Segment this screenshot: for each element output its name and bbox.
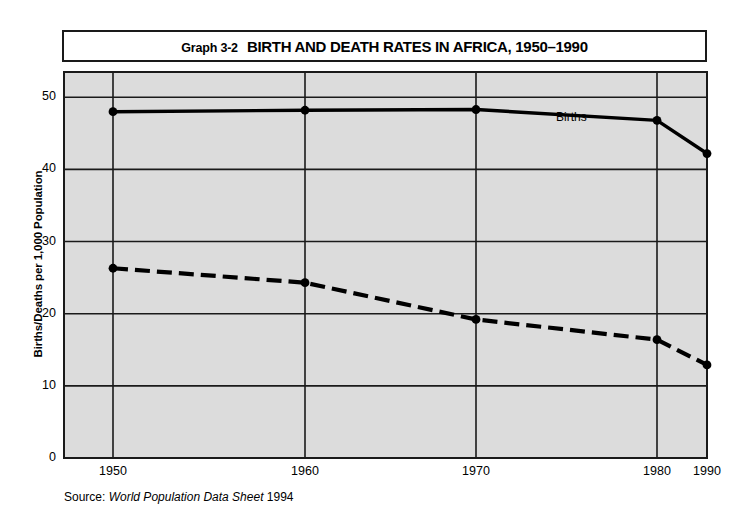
- data-point-births-1980: [653, 116, 662, 125]
- y-tick-10: 10: [16, 378, 56, 392]
- x-tick-1950: 1950: [83, 464, 143, 478]
- data-point-births-1960: [301, 106, 310, 115]
- data-point-deaths-1990: [703, 361, 712, 370]
- data-point-deaths-1950: [109, 264, 118, 273]
- x-tick-1960: 1960: [275, 464, 335, 478]
- y-tick-50: 50: [16, 89, 56, 103]
- y-tick-20: 20: [16, 306, 56, 320]
- source-year: 1994: [267, 490, 294, 504]
- chart-plot-area: [0, 0, 753, 528]
- y-tick-30: 30: [16, 234, 56, 248]
- data-point-deaths-1970: [472, 315, 481, 324]
- source-prefix: Source:: [64, 490, 105, 504]
- series-label-births: Births: [556, 110, 587, 124]
- x-tick-1970: 1970: [446, 464, 506, 478]
- x-tick-1990: 1990: [677, 464, 737, 478]
- y-tick-40: 40: [16, 161, 56, 175]
- plot-background: [64, 72, 707, 458]
- source-note: Source: World Population Data Sheet 1994: [64, 490, 294, 504]
- data-point-births-1990: [703, 149, 712, 158]
- y-tick-0: 0: [16, 450, 56, 464]
- data-point-deaths-1980: [653, 335, 662, 344]
- data-point-births-1950: [109, 107, 118, 116]
- data-point-deaths-1960: [301, 278, 310, 287]
- figure-container: Graph 3-2 BIRTH AND DEATH RATES IN AFRIC…: [0, 0, 753, 528]
- data-point-births-1970: [472, 105, 481, 114]
- source-publication: World Population Data Sheet: [109, 490, 264, 504]
